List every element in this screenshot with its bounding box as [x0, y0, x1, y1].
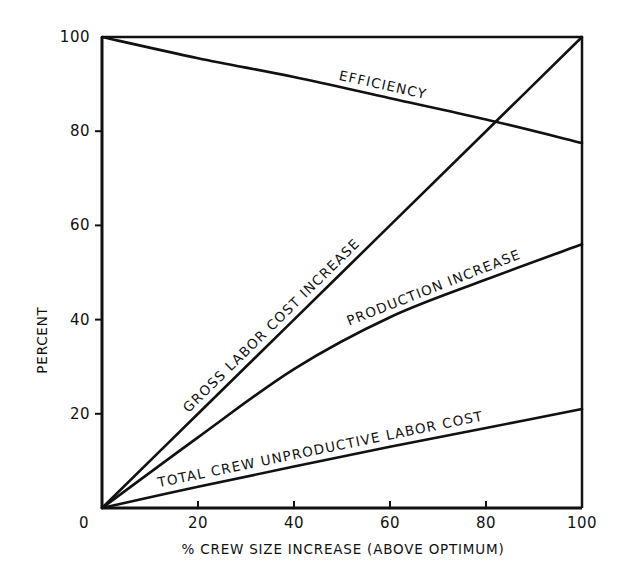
y-tick-label: 60: [70, 216, 90, 234]
x-tick-label: 0: [79, 514, 89, 532]
x-axis-title: % CREW SIZE INCREASE (ABOVE OPTIMUM): [182, 541, 505, 557]
y-tick-label: 20: [70, 405, 90, 423]
x-tick-label: 20: [188, 514, 208, 532]
x-tick-label: 100: [567, 514, 597, 532]
label-total-crew-unproductive-labor-cost: TOTAL CREW UNPRODUCTIVE LABOR COST: [155, 407, 485, 490]
y-tick-label: 80: [70, 122, 90, 140]
line-production-increase: [102, 244, 582, 508]
label-production-increase: PRODUCTION INCREASE: [344, 246, 523, 329]
x-tick-label: 80: [476, 514, 496, 532]
chart: 02040608010020406080100 EFFICIENCYGROSS …: [0, 0, 635, 579]
y-axis-title: PERCENT: [34, 306, 50, 373]
y-tick-label: 40: [70, 311, 90, 329]
label-gross-labor-cost-increase: GROSS LABOR COST INCREASE: [180, 235, 363, 415]
y-tick-label: 100: [60, 28, 90, 46]
x-tick-label: 40: [284, 514, 304, 532]
line-efficiency: [102, 37, 582, 143]
x-tick-label: 60: [380, 514, 400, 532]
line-total-crew-unproductive-labor-cost: [102, 409, 582, 508]
